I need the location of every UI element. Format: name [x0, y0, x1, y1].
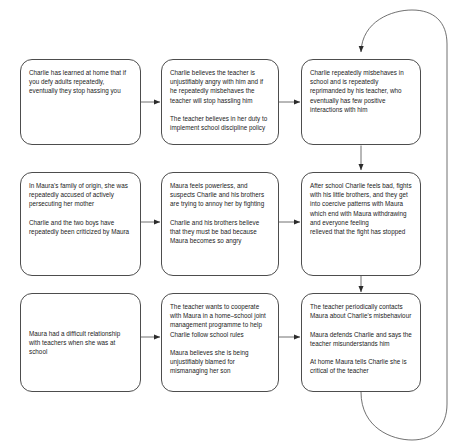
node-paragraph: Maura believes she is being unjustifiabl… [170, 348, 271, 376]
node-paragraph: Charlie believes the teacher is unjustif… [170, 68, 271, 105]
node-paragraph: Maura feels powerless, and suspects Char… [170, 181, 271, 209]
node-paragraph: Maura defends Charlie and says the teach… [310, 330, 413, 348]
node-paragraph: Charlie repeatedly misbehaves in school … [310, 68, 413, 114]
node-paragraph: The teacher believes in her duty to impl… [170, 114, 271, 132]
node-r1c2[interactable]: Charlie believes the teacher is unjustif… [161, 59, 279, 145]
node-r2c3[interactable]: After school Charlie feels bad, fights w… [301, 172, 421, 276]
node-paragraph: relieved that the fight has stopped [310, 227, 413, 236]
node-r3c2[interactable]: The teacher wants to cooperate with Maur… [161, 293, 279, 392]
node-r3c3[interactable]: The teacher periodically contacts Maura … [301, 293, 421, 392]
node-paragraph: Charlie and his brothers believe that th… [170, 218, 271, 246]
node-r2c2[interactable]: Maura feels powerless, and suspects Char… [161, 172, 279, 276]
node-paragraph: Charlie has learned at home that if you … [29, 68, 133, 96]
flowchart-canvas: Charlie has learned at home that if you … [0, 0, 456, 446]
node-paragraph: In Maura's family of origin, she was rep… [29, 181, 133, 209]
node-paragraph: After school Charlie feels bad, fights w… [310, 181, 413, 227]
node-r1c1[interactable]: Charlie has learned at home that if you … [20, 59, 141, 145]
node-paragraph: Maura had a difficult relationship with … [29, 329, 133, 357]
node-paragraph: At home Maura tells Charlie she is criti… [310, 357, 413, 375]
node-r1c3[interactable]: Charlie repeatedly misbehaves in school … [301, 59, 421, 145]
node-r3c1[interactable]: Maura had a difficult relationship with … [20, 293, 141, 392]
node-r2c1[interactable]: In Maura's family of origin, she was rep… [20, 172, 141, 276]
node-paragraph: The teacher wants to cooperate with Maur… [170, 302, 271, 339]
node-paragraph: The teacher periodically contacts Maura … [310, 302, 413, 320]
node-paragraph: Charlie and the two boys have repeatedly… [29, 218, 133, 236]
